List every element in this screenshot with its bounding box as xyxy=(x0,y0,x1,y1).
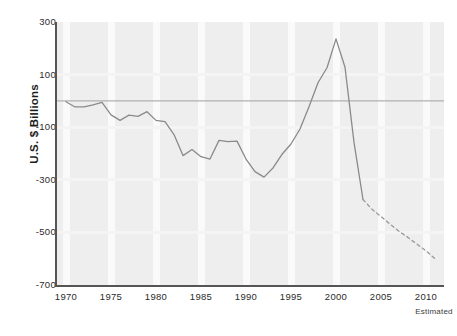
x-tick-label: 2000 xyxy=(316,291,356,302)
y-tick-label: -100 xyxy=(26,121,56,132)
x-tick-label: 1975 xyxy=(91,291,131,302)
x-tick-label: 1985 xyxy=(181,291,221,302)
y-axis-tick-labels: 300100-100-300-500-700 xyxy=(20,0,56,336)
y-axis-line xyxy=(55,22,57,287)
y-tick-label: 300 xyxy=(26,16,56,27)
estimated-annotation: Estimated xyxy=(399,307,457,316)
y-tick-label: 100 xyxy=(26,69,56,80)
data-line-estimated xyxy=(363,200,435,259)
y-tick-label: -500 xyxy=(26,226,56,237)
x-tick-label: 1980 xyxy=(136,291,176,302)
x-axis-line xyxy=(55,285,444,287)
plot-area xyxy=(57,22,444,285)
y-tick-label: -300 xyxy=(26,174,56,185)
x-tick-label: 1970 xyxy=(46,291,86,302)
data-series-layer xyxy=(57,22,444,285)
y-tick-label: -700 xyxy=(26,279,56,290)
x-tick-label: 2005 xyxy=(361,291,401,302)
x-tick-label: 1990 xyxy=(226,291,266,302)
x-tick-label: 1995 xyxy=(271,291,311,302)
x-tick-label: 2010 xyxy=(406,291,446,302)
data-line-actual xyxy=(66,39,363,200)
